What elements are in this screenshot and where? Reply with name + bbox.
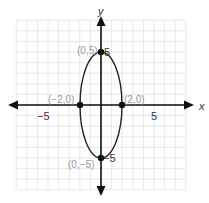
y-axis-label: y xyxy=(97,5,105,17)
x-tick-pos5: 5 xyxy=(151,110,157,122)
ellipse-graph: x y −5 5 5 −5 (0,5) (0,−5) (−2,0) (2,0) xyxy=(0,0,209,203)
point-left xyxy=(77,102,83,108)
y-axis-up-arrow-icon xyxy=(97,16,106,26)
point-label-top: (0,5) xyxy=(77,45,98,56)
x-axis-label: x xyxy=(198,100,205,112)
y-tick-neg5: −5 xyxy=(103,152,116,164)
x-axis-left-arrow-icon xyxy=(8,101,18,110)
y-tick-pos5: 5 xyxy=(104,46,110,58)
point-label-left: (−2,0) xyxy=(48,94,74,105)
point-label-right: (2,0) xyxy=(124,94,145,105)
x-axis-right-arrow-icon xyxy=(184,101,194,110)
x-tick-neg5: −5 xyxy=(37,110,50,122)
point-label-bottom: (0,−5) xyxy=(68,159,94,170)
y-axis-down-arrow-icon xyxy=(97,186,106,196)
